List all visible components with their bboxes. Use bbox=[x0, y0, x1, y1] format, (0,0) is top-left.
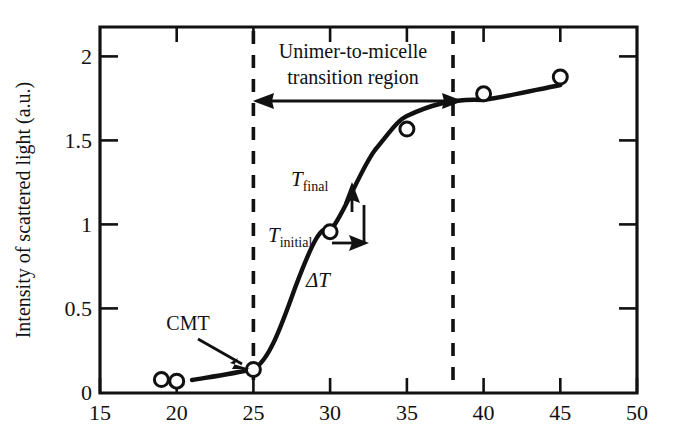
transition-label-line1: Unimer-to-micelle bbox=[279, 40, 428, 62]
cmt-label: CMT bbox=[166, 312, 209, 334]
figure-container: 15 20 25 30 35 40 45 50 0 0.5 1 1.5 2 In… bbox=[0, 0, 677, 441]
y-tick-label: 2 bbox=[81, 44, 92, 69]
y-axis-ticks-right bbox=[619, 56, 637, 308]
y-tick-label: 0 bbox=[81, 380, 92, 405]
y-axis-ticks bbox=[100, 56, 118, 308]
x-tick-label: 35 bbox=[396, 400, 418, 425]
transition-label-line2: transition region bbox=[287, 66, 419, 89]
transition-arrow-head-left bbox=[253, 93, 274, 109]
scatter-line-chart: 15 20 25 30 35 40 45 50 0 0.5 1 1.5 2 In… bbox=[0, 0, 677, 441]
delta-t-horizontal-head bbox=[349, 235, 369, 251]
t-final-annotation: Tfinal bbox=[291, 167, 328, 194]
x-tick-label: 50 bbox=[626, 400, 648, 425]
y-axis-title: Intensity of scattered light (a.u.) bbox=[12, 82, 35, 339]
x-tick-label: 30 bbox=[319, 400, 341, 425]
x-tick-label: 40 bbox=[473, 400, 495, 425]
x-tick-label: 25 bbox=[242, 400, 264, 425]
data-point bbox=[154, 373, 168, 387]
data-point bbox=[400, 122, 414, 136]
data-point bbox=[553, 70, 567, 84]
t-initial-annotation: Tinitial bbox=[268, 223, 312, 250]
t-initial-label: Tinitial bbox=[268, 223, 312, 250]
y-tick-label: 1 bbox=[81, 212, 92, 237]
t-initial-subscript: initial bbox=[280, 235, 313, 250]
delta-t-label: ΔT bbox=[305, 268, 331, 292]
delta-t-annotation: ΔT bbox=[305, 182, 369, 292]
x-tick-labels: 15 20 25 30 35 40 45 50 bbox=[89, 400, 648, 425]
t-final-subscript: final bbox=[303, 179, 329, 194]
transition-region-annotation: Unimer-to-micelle transition region bbox=[253, 40, 463, 109]
x-tick-label: 45 bbox=[549, 400, 571, 425]
data-point bbox=[246, 363, 260, 377]
x-tick-label: 20 bbox=[166, 400, 188, 425]
data-point bbox=[477, 87, 491, 101]
cmt-annotation: CMT bbox=[166, 312, 250, 369]
y-tick-labels: 0 0.5 1 1.5 2 bbox=[65, 44, 93, 405]
y-tick-label: 0.5 bbox=[65, 296, 93, 321]
t-final-label: Tfinal bbox=[291, 167, 328, 194]
y-tick-label: 1.5 bbox=[65, 128, 93, 153]
x-tick-label: 15 bbox=[89, 400, 111, 425]
data-point bbox=[170, 374, 184, 388]
data-point bbox=[323, 225, 337, 239]
data-curve bbox=[192, 85, 560, 380]
data-markers bbox=[154, 70, 567, 388]
